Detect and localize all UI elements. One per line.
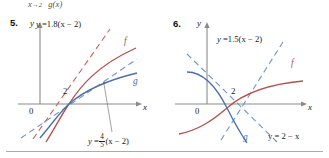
curve-f-5 [46,48,136,142]
equation-upper-5: y =1.8(x − 2) [36,19,81,29]
y-axis-arrow-6 [204,22,209,28]
tangent-line-red-5 [33,29,110,139]
limit-function: g(x) [48,0,62,9]
limit-value: 2 [39,1,42,8]
figure-page: x→2g(x) 5. y x [0,0,329,158]
eq5-body: (x − 2) [58,19,81,29]
curve-label-g-6: g [243,132,248,142]
eq5-lhs: y [36,19,40,29]
tangent-line-blue-neg-6 [187,54,277,142]
limit-fragment: x→2g(x) [28,0,63,9]
x-axis-arrow-6 [301,101,307,106]
exercise-5-panel: 5. y x [0,14,165,144]
eq5b-lhs: y [88,136,92,146]
origin-label-6: 0 [195,106,199,116]
footer-divider [6,151,323,152]
tick-label-2-panel6: 2 [231,86,236,96]
limit-arrow: → [32,1,39,8]
eq6-lhs: y [217,34,221,44]
eq5b-equals: = [94,136,99,146]
exercise-5-graph [0,14,165,144]
tangent-line-blue-5 [21,59,137,138]
equation-lower-6: y = 2 − x [268,131,299,141]
tick-label-2-panel5: 2 [63,86,68,96]
equation-lower-5: y =45(x − 2) [88,134,129,150]
leader-line-5 [104,84,112,132]
eq5-slope: 1.8 [47,19,58,29]
origin-label-5: 0 [29,106,33,116]
equation-upper-6: y =1.5(x − 2) [217,34,262,44]
leader-dot-5 [103,82,105,84]
curve-label-f-5: f [124,36,127,46]
eq6-body: (x − 2) [239,34,262,44]
curve-label-f-6: f [291,58,294,68]
eq5b-body: (x − 2) [105,136,128,146]
eq6-slope: 1.5 [228,34,239,44]
x-axis-arrow-5 [136,101,142,106]
exercise-6-panel: 6. y x y = [165,14,329,144]
exercise-5-svg [0,14,165,144]
curve-label-g-5: g [133,76,138,86]
